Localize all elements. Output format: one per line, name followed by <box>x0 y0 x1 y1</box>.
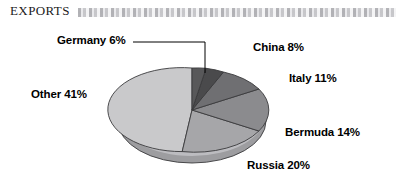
pie-label-china: China 8% <box>253 41 304 53</box>
pie-chart: Germany 6% China 8% Italy 11% Bermuda 14… <box>0 26 411 189</box>
pie-label-russia: Russia 20% <box>247 159 310 171</box>
pie-slice-other <box>108 68 192 152</box>
pie-label-germany: Germany 6% <box>57 34 126 46</box>
chart-header: EXPORTS <box>0 0 411 26</box>
pie-label-bermuda: Bermuda 14% <box>285 126 360 138</box>
redacted-text-band <box>78 8 396 17</box>
page-title: EXPORTS <box>10 3 70 19</box>
pie-chart-graphic <box>0 26 411 189</box>
pie-label-other: Other 41% <box>31 88 87 100</box>
pie-slices <box>108 68 269 153</box>
pie-label-italy: Italy 11% <box>289 72 337 84</box>
